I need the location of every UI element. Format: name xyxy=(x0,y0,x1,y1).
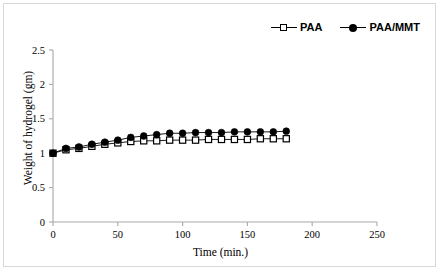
data-point-marker xyxy=(283,128,290,135)
x-tick-label: 200 xyxy=(304,229,320,240)
x-axis-ticks xyxy=(53,222,377,226)
data-point-marker xyxy=(63,145,70,152)
data-point-marker xyxy=(218,129,225,136)
data-point-marker xyxy=(244,136,250,142)
data-point-marker xyxy=(166,130,173,137)
data-point-marker xyxy=(154,138,160,144)
x-tick-label: 100 xyxy=(175,229,191,240)
x-tick-label: 50 xyxy=(113,229,124,240)
data-point-marker xyxy=(205,129,212,136)
data-point-marker xyxy=(231,136,237,142)
data-point-marker xyxy=(179,130,186,137)
y-tick-label: 2 xyxy=(40,79,45,90)
data-point-marker xyxy=(231,128,238,135)
x-tick-label: 150 xyxy=(240,229,256,240)
data-point-marker xyxy=(76,144,83,151)
axis-lines xyxy=(53,50,377,222)
data-point-marker xyxy=(114,137,121,144)
y-tick-label: 1 xyxy=(40,148,45,159)
data-point-marker xyxy=(270,136,276,142)
data-point-marker xyxy=(153,131,160,138)
data-point-marker xyxy=(270,128,277,135)
x-axis-tick-labels: 050100150200250 xyxy=(50,229,385,240)
chart-plot-area: 050100150200250 00.511.522.5 xyxy=(0,0,441,272)
data-point-marker xyxy=(244,128,251,135)
data-point-marker xyxy=(192,137,198,143)
data-point-marker xyxy=(167,137,173,143)
data-point-marker xyxy=(127,134,134,141)
x-tick-label: 0 xyxy=(50,229,55,240)
y-tick-label: 0 xyxy=(40,217,45,228)
data-point-marker xyxy=(50,150,57,157)
x-axis-title: Time (min.) xyxy=(0,246,441,258)
x-tick-label: 250 xyxy=(369,229,385,240)
data-point-marker xyxy=(257,136,263,142)
data-point-marker xyxy=(88,141,95,148)
data-point-marker xyxy=(205,136,211,142)
data-point-marker xyxy=(180,137,186,143)
y-axis-title: Weight of hydrogel (gm) xyxy=(22,38,34,218)
data-point-marker xyxy=(192,129,199,136)
data-point-marker xyxy=(283,136,289,142)
y-axis-ticks xyxy=(49,50,53,222)
data-point-marker xyxy=(101,139,108,146)
data-point-marker xyxy=(257,128,264,135)
data-point-marker xyxy=(218,136,224,142)
data-point-marker xyxy=(140,133,147,140)
